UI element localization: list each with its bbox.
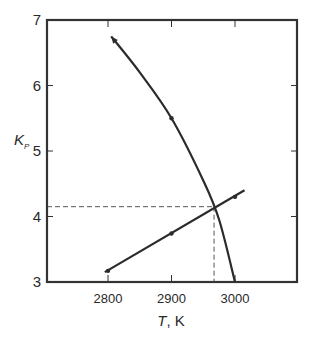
data-marker [106, 269, 110, 273]
y-tick-label: 3 [33, 273, 41, 290]
y-tick-label: 5 [33, 142, 41, 159]
plot-border [47, 20, 297, 282]
axis-ticks [47, 20, 297, 282]
data-marker [169, 231, 173, 235]
increasing-line [105, 190, 245, 272]
y-tick-label: 6 [33, 77, 41, 94]
y-axis-label: KP [14, 131, 30, 151]
chart: 28002900300034567 T, K KP [0, 0, 312, 337]
x-axis-label: T, K [157, 312, 185, 329]
x-tick-label: 2900 [157, 291, 186, 306]
x-tick-label: 2800 [94, 291, 123, 306]
data-marker [169, 116, 173, 120]
intersection-guides [47, 207, 214, 282]
plot-frame [47, 20, 297, 282]
tick-labels: 28002900300034567 [33, 11, 250, 306]
y-tick-label: 7 [33, 11, 41, 28]
data-series [105, 36, 245, 282]
data-marker [233, 195, 237, 199]
y-tick-label: 4 [33, 208, 41, 225]
x-tick-label: 3000 [221, 291, 250, 306]
decreasing-curve [111, 36, 235, 282]
